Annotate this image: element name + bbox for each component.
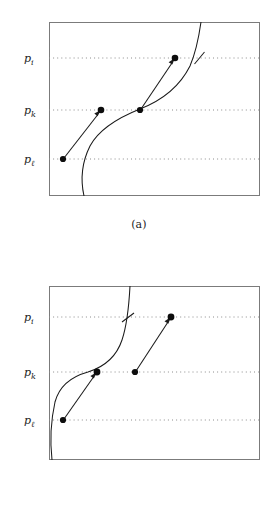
point-high: [168, 314, 175, 321]
point-mid-right: [137, 107, 143, 113]
curve-tick-mark: [195, 52, 205, 64]
p-i-label: pi: [24, 311, 34, 326]
p-ell-label: pℓ: [24, 153, 35, 168]
p-k-label: pk: [24, 366, 36, 381]
p-k-label: pk: [24, 104, 36, 119]
sigmoid-curve: [51, 286, 130, 460]
arrow-mid-to-high: [141, 58, 175, 109]
plot-frame: [50, 287, 260, 460]
figure-root: pi pk pℓ (a): [0, 0, 278, 522]
point-mid-left: [94, 369, 101, 376]
panel-a: pi pk pℓ (a): [0, 0, 278, 260]
point-high: [172, 55, 179, 62]
point-low: [60, 417, 66, 423]
panel-b: pi pk pℓ (b): [0, 260, 278, 522]
p-ell-label: pℓ: [24, 414, 35, 429]
arrow-mid-to-high: [136, 317, 171, 371]
caption-a: (a): [0, 218, 278, 231]
arrow-low-to-mid: [64, 372, 97, 419]
arrow-low-to-mid: [64, 110, 101, 158]
p-i-label: pi: [24, 52, 34, 67]
panel-b-plot: pi pk pℓ: [0, 260, 278, 522]
plot-frame: [50, 23, 260, 196]
point-mid-right: [132, 369, 138, 375]
point-mid-left: [98, 107, 105, 114]
point-low: [60, 156, 66, 162]
